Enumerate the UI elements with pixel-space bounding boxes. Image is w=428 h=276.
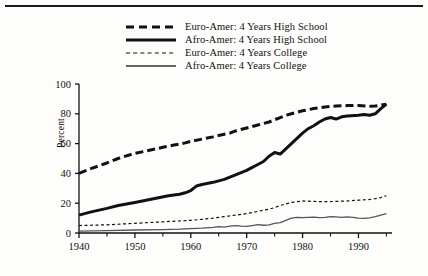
series-line-2: [79, 196, 386, 226]
series-line-1: [79, 104, 386, 215]
x-tick-label: 1950: [124, 241, 145, 252]
axes-layer: 020406080100194019501960197019801990: [55, 79, 392, 252]
y-tick-label: 40: [61, 168, 72, 179]
y-tick-label: 80: [61, 108, 72, 119]
series-line-0: [79, 104, 386, 173]
x-tick-label: 1980: [292, 241, 313, 252]
chart-figure: Euro-Amer: 4 Years High School Afro-Amer…: [0, 0, 428, 276]
chart-plot-area: 020406080100194019501960197019801990: [0, 0, 428, 276]
y-tick-label: 20: [61, 198, 72, 209]
y-tick-label: 0: [66, 228, 71, 239]
x-tick-label: 1960: [180, 241, 201, 252]
series-line-3: [79, 214, 386, 231]
x-tick-label: 1990: [348, 241, 369, 252]
series-layer: [79, 104, 386, 231]
x-tick-label: 1970: [236, 241, 257, 252]
x-tick-label: 1940: [69, 241, 90, 252]
y-tick-label: 60: [61, 138, 72, 149]
y-tick-label: 100: [55, 79, 71, 90]
